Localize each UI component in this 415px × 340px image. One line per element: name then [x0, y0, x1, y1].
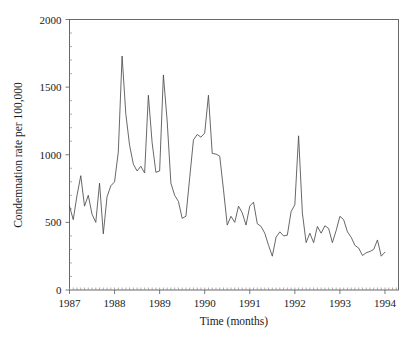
- chart-figure: 0500100015002000 19871988198919901991199…: [0, 0, 415, 340]
- x-tick-label: 1994: [374, 297, 397, 309]
- x-axis-tick-labels: 19871988198919901991199219931994: [59, 297, 397, 309]
- x-axis-ticks: [70, 290, 385, 294]
- x-tick-label: 1987: [59, 297, 82, 309]
- y-tick-label: 0: [56, 284, 62, 296]
- x-tick-label: 1992: [284, 297, 306, 309]
- y-tick-label: 1500: [40, 81, 63, 93]
- y-axis-title: Condemnation rate per 100,000: [12, 82, 25, 228]
- y-axis-ticks: [66, 20, 70, 291]
- y-tick-label: 1000: [40, 149, 63, 161]
- x-tick-label: 1988: [104, 297, 127, 309]
- x-tick-label: 1989: [149, 297, 172, 309]
- y-axis-tick-labels: 0500100015002000: [40, 14, 63, 297]
- x-tick-label: 1993: [329, 297, 352, 309]
- plot-frame: [70, 20, 399, 291]
- y-tick-label: 500: [45, 216, 62, 228]
- x-tick-label: 1990: [194, 297, 217, 309]
- x-axis-title: Time (months): [200, 315, 268, 328]
- data-series-line: [70, 56, 385, 256]
- chart-canvas: 0500100015002000 19871988198919901991199…: [0, 0, 415, 340]
- y-tick-label: 2000: [40, 14, 63, 26]
- x-tick-label: 1991: [239, 297, 261, 309]
